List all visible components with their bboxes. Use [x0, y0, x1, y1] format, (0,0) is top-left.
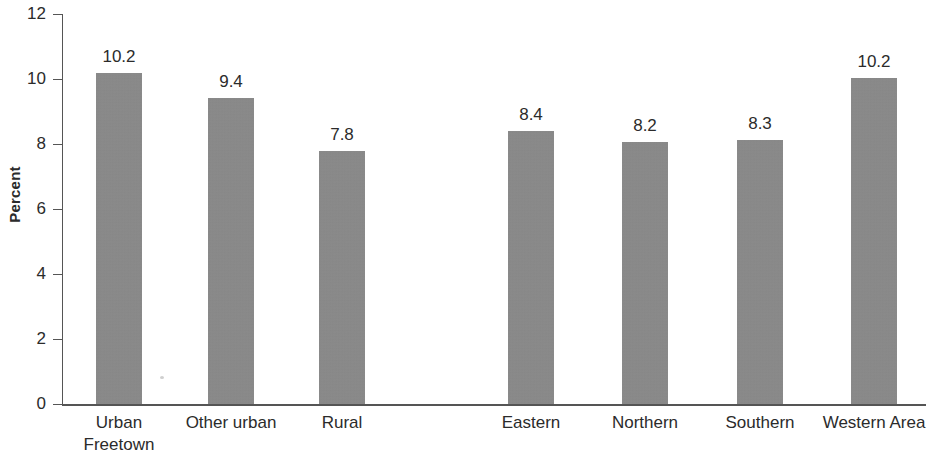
y-axis-title: Percent [6, 150, 23, 240]
x-label-line2: Freetown [49, 434, 189, 456]
bar-western-area [851, 78, 897, 404]
y-tick-mark-10 [53, 79, 62, 80]
y-tick-label-6: 6 [6, 200, 46, 217]
bar-rural [319, 151, 365, 404]
y-tick-mark-2 [53, 339, 62, 340]
y-tick-label-2: 2 [6, 330, 46, 347]
bar-urban-freetown [96, 73, 142, 404]
y-tick-mark-6 [53, 209, 62, 210]
x-label-line1: Rural [322, 413, 363, 432]
bar-value-western-area: 10.2 [834, 53, 914, 70]
x-label-line1: Northern [612, 413, 678, 432]
bar-southern [737, 140, 783, 404]
y-tick-label-10: 10 [6, 70, 46, 87]
x-label-line1: Eastern [502, 413, 561, 432]
bar-northern [622, 142, 668, 404]
bar-eastern [508, 131, 554, 404]
x-label-line1: Other urban [186, 413, 277, 432]
bar-value-northern: 8.2 [605, 117, 685, 134]
bar-value-eastern: 8.4 [491, 106, 571, 123]
x-label-line1: Southern [726, 413, 795, 432]
x-label-line1: Western Area [823, 413, 926, 432]
x-label-western-area: Western Area [804, 412, 931, 434]
y-tick-label-4: 4 [6, 265, 46, 282]
y-axis-line [62, 14, 63, 405]
bar-value-rural: 7.8 [302, 126, 382, 143]
y-tick-label-12: 12 [6, 5, 46, 22]
y-tick-mark-4 [53, 274, 62, 275]
y-tick-mark-8 [53, 144, 62, 145]
y-tick-label-0: 0 [6, 395, 46, 412]
y-tick-mark-12 [53, 14, 62, 15]
scan-artifact-speck [160, 376, 164, 379]
x-label-line1: Urban [96, 413, 142, 432]
x-axis-line [62, 404, 926, 406]
bar-value-other-urban: 9.4 [191, 73, 271, 90]
y-tick-label-8: 8 [6, 135, 46, 152]
bar-value-southern: 8.3 [720, 115, 800, 132]
y-tick-mark-0 [53, 404, 62, 405]
bar-value-urban-freetown: 10.2 [79, 48, 159, 65]
bar-other-urban [208, 98, 254, 404]
x-label-rural: Rural [272, 412, 412, 434]
